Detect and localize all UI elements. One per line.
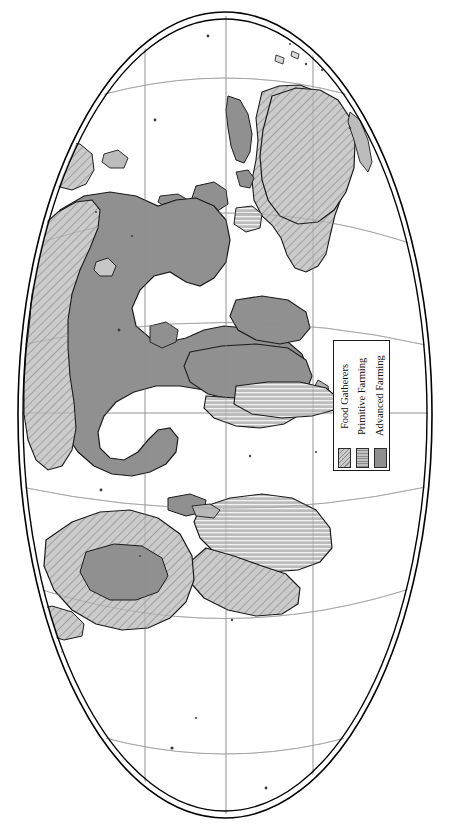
island-marker (170, 746, 173, 749)
legend-entry-advanced-farming: Advanced Farming (372, 344, 388, 468)
island-marker (100, 489, 103, 492)
island-marker (118, 329, 121, 332)
legend-label-food-gatherers: Food Gatherers (340, 344, 351, 446)
map-legend: Food Gatherers Primitive Farming Advance… (333, 340, 390, 471)
island-marker (265, 787, 268, 790)
legend-swatch-food-gatherers (338, 448, 351, 468)
legend-swatch-primitive-farming (356, 448, 369, 468)
landmass-east-asia-primitive (234, 382, 338, 418)
island-marker (154, 119, 157, 122)
world-map-figure: Food Gatherers Primitive Farming Advance… (0, 0, 450, 837)
island-marker (207, 35, 210, 38)
legend-swatch-advanced-farming (374, 448, 387, 468)
legend-label-primitive-farming: Primitive Farming (357, 344, 368, 446)
legend-entry-food-gatherers: Food Gatherers (337, 344, 353, 468)
legend-entry-primitive-farming: Primitive Farming (355, 344, 371, 468)
legend-label-advanced-farming: Advanced Farming (375, 344, 386, 446)
